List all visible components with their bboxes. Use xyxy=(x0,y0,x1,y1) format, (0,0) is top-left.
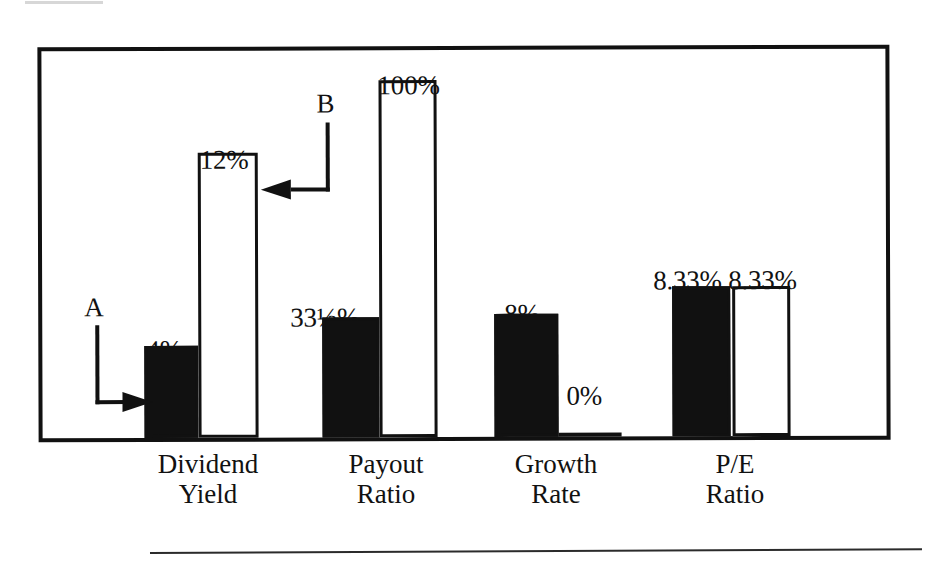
category-label-line-2: Ratio xyxy=(645,479,825,509)
value-label-dividend-yield-a: 4% xyxy=(146,337,182,364)
category-label-line-1: P/E xyxy=(645,449,825,479)
bar-dividend-yield-b xyxy=(198,153,259,438)
callout-b-arrowhead-icon xyxy=(261,180,291,200)
bar-pe-ratio-b xyxy=(732,286,790,436)
bar-pe-ratio-a xyxy=(672,286,730,436)
value-label-dividend-yield-b: 12% xyxy=(200,147,249,174)
category-label-pe-ratio: P/E Ratio xyxy=(645,449,825,509)
category-label-line-1: Growth xyxy=(466,449,646,479)
scan-artifact xyxy=(25,1,103,4)
category-label-line-2: Ratio xyxy=(296,479,476,509)
bar-growth-rate-a xyxy=(494,314,558,437)
callout-b-elbow xyxy=(291,187,330,191)
value-label-payout-ratio-a: 33⅓% xyxy=(290,304,359,331)
page-divider-rule xyxy=(150,548,922,554)
category-label-line-1: Dividend xyxy=(118,449,298,479)
category-label-line-2: Rate xyxy=(466,479,646,509)
chart-canvas: 4% 12% 33⅓% 100% 8% 0% 8.33% 8.33% A B D… xyxy=(0,0,926,569)
callout-label-b: B xyxy=(317,90,335,117)
category-label-line-2: Yield xyxy=(118,479,298,509)
callout-a-arrowhead-icon xyxy=(122,392,152,412)
value-label-pe-ratio-a: 8.33% xyxy=(653,267,722,294)
callout-b-stem xyxy=(326,122,330,191)
value-label-payout-ratio-b: 100% xyxy=(377,72,439,99)
plot-area: 4% 12% 33⅓% 100% 8% 0% 8.33% 8.33% A B xyxy=(37,45,890,443)
value-label-pe-ratio-b: 8.33% xyxy=(728,267,797,294)
category-label-payout-ratio: Payout Ratio xyxy=(296,449,476,509)
callout-a-stem xyxy=(95,325,99,404)
category-label-line-1: Payout xyxy=(296,449,476,479)
value-label-growth-rate-a: 8% xyxy=(504,301,540,328)
value-label-growth-rate-b: 0% xyxy=(566,383,602,410)
bar-payout-ratio-b xyxy=(378,80,437,437)
callout-label-a: A xyxy=(84,294,104,321)
category-label-dividend-yield: Dividend Yield xyxy=(118,449,298,509)
bar-payout-ratio-a xyxy=(322,317,379,437)
bar-growth-rate-b xyxy=(559,433,622,437)
category-label-growth-rate: Growth Rate xyxy=(466,449,646,509)
